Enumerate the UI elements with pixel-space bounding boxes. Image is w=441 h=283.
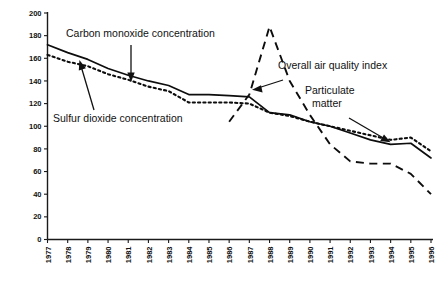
y-tick-label: 160 — [29, 54, 42, 63]
x-tick-label: 1984 — [185, 246, 194, 264]
x-tick-label: 1983 — [165, 247, 174, 264]
x-tick-label: 1991 — [326, 247, 335, 264]
series-overall-air-quality-index — [229, 27, 431, 195]
annotation-arrowhead-particulate-matter — [380, 135, 390, 143]
air-quality-line-chart: 020406080100120140160180200 197719781979… — [0, 0, 441, 283]
x-tick-label: 1994 — [387, 246, 396, 264]
y-tick-label: 180 — [29, 31, 42, 40]
y-tick-label: 140 — [29, 77, 42, 86]
x-tick-label: 1978 — [64, 247, 73, 264]
annotation-label-particulate-matter-line1: Particulate — [305, 84, 355, 96]
x-tick-label: 1977 — [44, 247, 53, 264]
x-tick-label: 1990 — [306, 247, 315, 264]
x-tick-label: 1982 — [145, 247, 154, 264]
annotation-label-carbon-monoxide: Carbon monoxide concentration — [66, 27, 215, 39]
annotation-arrow-sulfur-dioxide — [81, 66, 94, 110]
x-tick-label: 1993 — [367, 247, 376, 264]
x-tick-label: 1981 — [124, 247, 133, 264]
x-tick-label: 1979 — [84, 247, 93, 264]
y-axis-tick-labels: 020406080100120140160180200 — [29, 9, 42, 245]
annotation-arrow-air-quality-index — [258, 80, 283, 88]
x-tick-label: 1992 — [346, 247, 355, 264]
y-tick-label: 100 — [29, 122, 42, 131]
y-tick-label: 0 — [37, 235, 41, 244]
y-tick-label: 200 — [29, 9, 42, 18]
annotation-arrowhead-air-quality-index — [252, 85, 263, 92]
x-axis-tick-labels: 1977197819791980198119821983198419851986… — [44, 246, 437, 264]
x-tick-label: 1987 — [246, 247, 255, 264]
x-tick-label: 1989 — [286, 247, 295, 264]
annotation-label-particulate-matter-line2: matter — [312, 97, 342, 109]
x-tick-label: 1988 — [266, 247, 275, 264]
x-tick-label: 1980 — [104, 247, 113, 264]
annotation-arrow-particulate-matter — [349, 118, 385, 139]
annotation-label-sulfur-dioxide: Sulfur dioxide concentration — [53, 112, 183, 124]
y-tick-label: 80 — [33, 145, 41, 154]
chart-container: 020406080100120140160180200 197719781979… — [0, 0, 441, 283]
annotation-label-air-quality-index: Overall air quality index — [278, 59, 388, 71]
y-tick-label: 20 — [33, 212, 41, 221]
x-tick-label: 1986 — [225, 247, 234, 264]
y-tick-label: 120 — [29, 99, 42, 108]
x-tick-label: 1985 — [205, 247, 214, 264]
y-tick-label: 40 — [33, 190, 41, 199]
y-tick-label: 60 — [33, 167, 41, 176]
x-tick-label: 1995 — [407, 247, 416, 264]
x-tick-label: 1996 — [427, 247, 436, 264]
